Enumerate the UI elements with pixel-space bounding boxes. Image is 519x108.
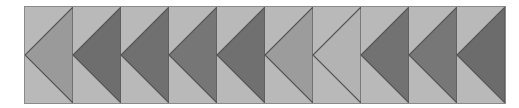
flying-geese-strip <box>24 6 506 104</box>
geese-block-5 <box>217 7 265 103</box>
geese-svg <box>25 7 505 103</box>
geese-block-7 <box>313 7 361 103</box>
geese-block-3 <box>121 7 169 103</box>
geese-block-9 <box>409 7 457 103</box>
geese-block-10 <box>457 7 505 103</box>
geese-block-8 <box>361 7 409 103</box>
geese-block-6 <box>265 7 313 103</box>
geese-block-1 <box>25 7 73 103</box>
geese-block-2 <box>73 7 121 103</box>
geese-block-4 <box>169 7 217 103</box>
